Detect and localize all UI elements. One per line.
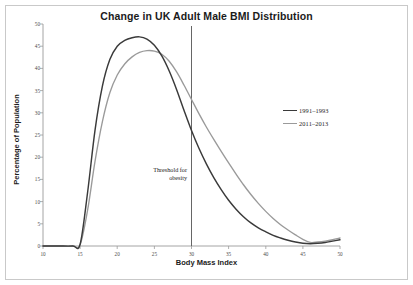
legend-item-1991-1993: 1991–1993 bbox=[283, 104, 383, 117]
chart-canvas bbox=[0, 0, 413, 285]
y-tick-label: 30 bbox=[24, 110, 40, 116]
legend-swatch-1991-1993 bbox=[283, 110, 297, 111]
x-tick-label: 40 bbox=[257, 251, 275, 257]
threshold-annotation-line2: obesity bbox=[130, 174, 187, 182]
x-axis-title: Body Mass Index bbox=[0, 258, 413, 267]
y-tick-label: 0 bbox=[24, 243, 40, 249]
y-tick-label: 25 bbox=[24, 132, 40, 138]
x-tick-label: 30 bbox=[183, 251, 201, 257]
y-tick-label: 20 bbox=[24, 154, 40, 160]
y-tick-label: 40 bbox=[24, 65, 40, 71]
threshold-annotation-line1: Threshold for bbox=[130, 166, 187, 174]
chart-figure: Change in UK Adult Male BMI Distribution bbox=[0, 0, 413, 285]
y-tick-label: 50 bbox=[24, 21, 40, 27]
x-tick-label: 50 bbox=[331, 251, 349, 257]
legend-label-2011-2013: 2011–2013 bbox=[299, 120, 328, 127]
x-tick-label: 25 bbox=[145, 251, 163, 257]
y-tick-label: 10 bbox=[24, 199, 40, 205]
y-tick-label: 45 bbox=[24, 43, 40, 49]
x-tick-label: 20 bbox=[108, 251, 126, 257]
x-tick-label: 35 bbox=[220, 251, 238, 257]
y-axis-title: Percentage of Population bbox=[12, 80, 21, 200]
y-tick-label: 15 bbox=[24, 176, 40, 182]
legend-swatch-2011-2013 bbox=[283, 123, 297, 124]
y-tick-label: 5 bbox=[24, 221, 40, 227]
legend-item-2011-2013: 2011–2013 bbox=[283, 117, 383, 130]
obesity-threshold-annotation: Threshold for obesity bbox=[130, 166, 187, 182]
chart-legend: 1991–1993 2011–2013 bbox=[283, 104, 383, 130]
x-tick-label: 10 bbox=[34, 251, 52, 257]
x-tick-label: 45 bbox=[294, 251, 312, 257]
y-tick-label: 35 bbox=[24, 88, 40, 94]
x-tick-label: 15 bbox=[71, 251, 89, 257]
legend-label-1991-1993: 1991–1993 bbox=[299, 107, 329, 114]
